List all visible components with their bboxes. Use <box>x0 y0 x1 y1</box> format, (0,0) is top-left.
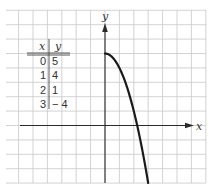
table-cell: 3 <box>40 98 46 110</box>
function-curve <box>105 54 148 184</box>
table-header: y <box>54 40 62 53</box>
table-cell: 0 <box>40 55 46 67</box>
table-cell: − 4 <box>52 98 68 110</box>
value-table: xy0514213− 4 <box>27 39 70 110</box>
x-axis-arrow-icon <box>185 123 194 129</box>
graph: x y xy0514213− 4 <box>0 0 209 193</box>
x-axis-label: x <box>196 120 203 133</box>
table-header: x <box>39 40 46 53</box>
table-cell: 2 <box>40 84 46 96</box>
table-cell: 4 <box>52 69 58 81</box>
table-cell: 1 <box>40 69 46 81</box>
y-axis-label: y <box>101 10 109 23</box>
table-cell: 5 <box>52 55 58 67</box>
table-cell: 1 <box>52 84 58 96</box>
grid <box>6 10 206 183</box>
